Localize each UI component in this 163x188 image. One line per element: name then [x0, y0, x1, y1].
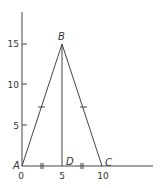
point-label-A: A — [12, 160, 20, 171]
point-label-D: D — [66, 156, 74, 167]
x-tick-label-10: 10 — [97, 171, 109, 181]
point-label-B: B — [58, 31, 65, 42]
point-label-C: C — [105, 157, 112, 168]
x-tick-label-0: 0 — [18, 171, 24, 181]
segment-BC — [62, 44, 102, 166]
y-tick-label-10: 10 — [8, 80, 20, 90]
y-tick-label-5: 5 — [13, 121, 19, 131]
y-tick-label-15: 15 — [8, 39, 19, 49]
triangle-diagram: 15 10 5 0 5 10 A B C D — [0, 0, 163, 188]
segment-AB — [22, 44, 62, 166]
x-tick-label-5: 5 — [59, 171, 65, 181]
